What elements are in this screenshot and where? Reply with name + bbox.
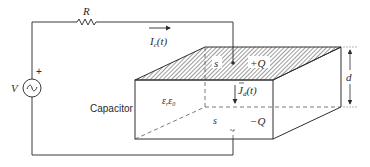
circuit-wires (32, 19, 236, 155)
top-plate-charge-label: +Q (250, 57, 265, 69)
conduction-current-arg: (t) (157, 35, 168, 48)
svg-text:Ic(t): Ic(t) (149, 35, 168, 49)
source-voltage-label: V (11, 82, 19, 94)
capacitor-label: Capacitor (90, 103, 133, 114)
displacement-current-arg: (t) (246, 84, 257, 97)
source-polarity-label: + (36, 66, 42, 77)
resistor-symbol (77, 19, 98, 25)
capacitor-circuit-diagram: + V R Ic(t) s +Q s −Q Jd(t) εr (0, 0, 370, 167)
resistor-label: R (82, 5, 90, 17)
top-plate-area-label: s (214, 57, 218, 69)
displacement-current: Jd(t) (235, 83, 257, 103)
svg-text:Jd(t): Jd(t) (238, 84, 257, 98)
bottom-plate-charge-label: −Q (250, 115, 265, 127)
sine-wave-icon (27, 85, 37, 91)
bottom-plate-area-label: s (213, 115, 217, 126)
separation-label: d (346, 71, 352, 83)
permittivity-label: εrε0 (162, 95, 175, 107)
hidden-bottom-diagonal-edge (135, 107, 205, 139)
separation-dimension: d (343, 47, 358, 107)
ac-source: + V (11, 66, 42, 97)
conduction-current: Ic(t) (149, 28, 170, 49)
top-plate (135, 47, 341, 80)
